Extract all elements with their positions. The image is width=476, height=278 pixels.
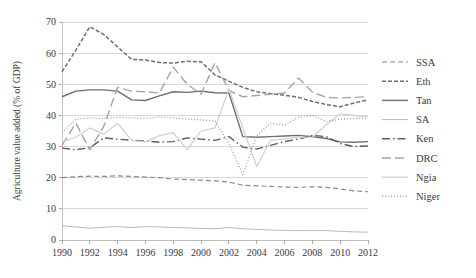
chart-figure: 010203040506070 199019921994199619982000…	[0, 0, 476, 278]
x-tick-label: 1992	[80, 247, 100, 258]
x-tick-label: 1994	[108, 247, 128, 258]
y-axis-title-text: Agriculture value added (% of GDP)	[12, 61, 23, 201]
y-tick-label: 10	[46, 203, 56, 214]
y-tick-label: 50	[46, 79, 56, 90]
y-tick-label: 40	[46, 110, 56, 121]
x-tick-label: 2008	[302, 247, 322, 258]
y-axis-title: Agriculture value added (% of GDP)	[12, 61, 23, 201]
x-tick-label: 2002	[219, 247, 239, 258]
data-series	[62, 27, 368, 233]
series-line-ngia	[62, 89, 368, 167]
y-tick-label: 70	[46, 16, 56, 27]
x-tick-label: 2000	[191, 247, 211, 258]
y-tick-label: 60	[46, 48, 56, 59]
y-tick-label: 20	[46, 172, 56, 183]
legend-label-ngia: Ngia	[416, 172, 437, 183]
x-tick-label: 2004	[247, 247, 267, 258]
legend-label-sa: SA	[416, 114, 430, 125]
legend-label-tan: Tan	[416, 95, 432, 106]
legend-label-eth: Eth	[416, 76, 431, 87]
series-line-niger	[62, 115, 368, 174]
legend-label-ken: Ken	[416, 133, 434, 144]
series-line-sa	[62, 226, 368, 233]
legend: SSAEthTanSAKenDRCNgiaNiger	[382, 57, 440, 202]
x-tick-label: 2006	[275, 247, 295, 258]
y-tick-label: 30	[46, 141, 56, 152]
legend-label-ssa: SSA	[416, 57, 436, 68]
legend-label-drc: DRC	[416, 153, 438, 164]
y-axis-tick-labels: 010203040506070	[46, 16, 56, 245]
x-tick-label: 1996	[135, 247, 155, 258]
x-tick-label: 2012	[358, 247, 378, 258]
x-tick-label: 1990	[52, 247, 72, 258]
series-line-ssa	[62, 176, 368, 192]
series-line-eth	[62, 27, 368, 107]
line-chart: 010203040506070 199019921994199619982000…	[0, 0, 476, 278]
x-tick-label: 2010	[330, 247, 350, 258]
y-tick-label: 0	[51, 234, 56, 245]
x-tick-label: 1998	[163, 247, 183, 258]
legend-label-niger: Niger	[416, 191, 440, 202]
x-axis-tick-labels: 1990199219941996199820002002200420062008…	[52, 247, 378, 258]
